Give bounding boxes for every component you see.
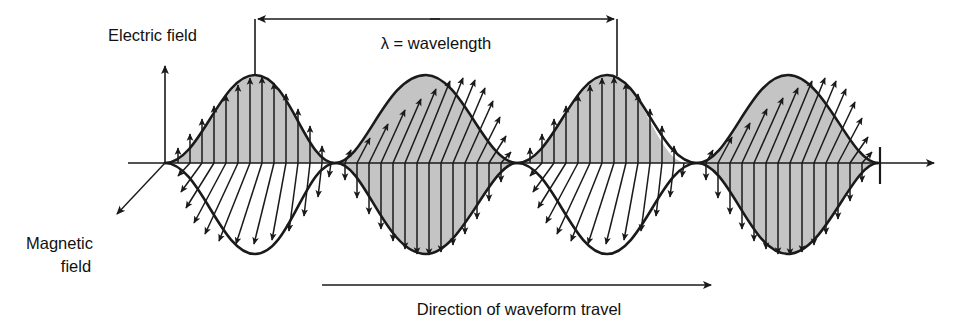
- magnetic-field-axis: [117, 163, 165, 214]
- wave-lobe-lower-4: [697, 163, 878, 254]
- electromagnetic-wave-figure: λ = wavelength Direction of waveform tra…: [0, 0, 965, 327]
- wavelength-marker-group: λ = wavelength: [255, 19, 617, 76]
- magnetic-arrows-diag-1: [178, 163, 331, 244]
- wave-lobe-upper-4: [697, 75, 878, 163]
- axis-label-group: Electric field Magnetic field: [26, 26, 197, 275]
- electric-field-label: Electric field: [108, 26, 197, 44]
- wave-diagram-canvas: λ = wavelength Direction of waveform tra…: [0, 0, 965, 327]
- magnetic-field-label-line1: Magnetic: [26, 234, 93, 252]
- wavelength-label: λ = wavelength: [381, 34, 492, 52]
- magnetic-arrows-diag-3: [530, 163, 684, 244]
- direction-label: Direction of waveform travel: [417, 300, 622, 318]
- direction-marker-group: Direction of waveform travel: [322, 285, 711, 318]
- magnetic-field-label-line2: field: [61, 257, 91, 275]
- wave-lobe-upper-3: [335, 75, 517, 163]
